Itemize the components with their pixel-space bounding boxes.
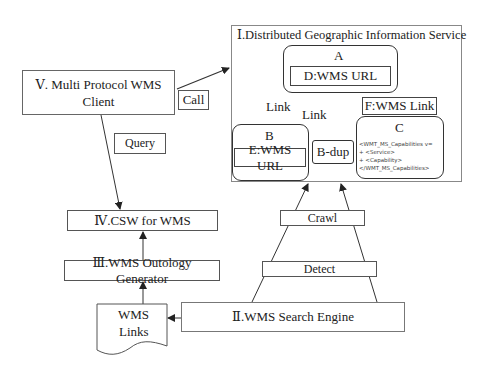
crawl-label: Crawl bbox=[280, 210, 365, 226]
node-f-wms-link: F:WMS Link bbox=[362, 97, 437, 115]
wms-ontology-generator: Ⅲ.WMS Outology Generator bbox=[64, 260, 220, 281]
node-c-label: C bbox=[395, 120, 404, 136]
node-a-label: A bbox=[334, 48, 343, 64]
call-label: Call bbox=[178, 90, 209, 110]
link-label-2: Link bbox=[302, 107, 327, 123]
detect-label: Detect bbox=[262, 261, 377, 277]
client-line-2: Client bbox=[83, 93, 115, 110]
call-arrow bbox=[177, 68, 229, 89]
node-d-wms-url: D:WMS URL bbox=[290, 66, 391, 86]
wms-links-line-1: WMS bbox=[118, 307, 149, 323]
client-line-1: Ⅴ. Multi Protocol WMS bbox=[35, 76, 161, 93]
query-label: Query bbox=[114, 133, 166, 154]
node-e-wms-url: E:WMS URL bbox=[234, 148, 306, 167]
wms-search-engine: Ⅱ.WMS Search Engine bbox=[181, 302, 405, 332]
link-label-1: Link bbox=[266, 99, 291, 115]
node-b-dup: B-dup bbox=[312, 140, 354, 164]
dgis-title: Ⅰ.Distributed Geographic Information Ser… bbox=[237, 27, 466, 43]
csw-for-wms: Ⅳ.CSW for WMS bbox=[67, 210, 218, 231]
crawl-left-arrow bbox=[252, 184, 308, 302]
wms-links-line-2: Links bbox=[119, 324, 149, 340]
multi-protocol-wms-client: Ⅴ. Multi Protocol WMS Client bbox=[22, 70, 175, 115]
capabilities-line-4: </WMT_MS_Capabilities> bbox=[359, 164, 429, 173]
query-arrow bbox=[101, 115, 120, 209]
crawl-right-arrow bbox=[341, 184, 377, 302]
